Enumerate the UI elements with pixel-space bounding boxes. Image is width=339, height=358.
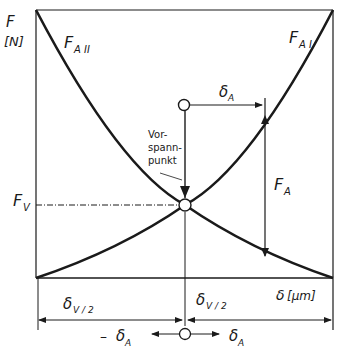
label-fv: F V	[13, 191, 31, 213]
svg-text:F: F	[64, 33, 74, 52]
svg-text:A: A	[237, 338, 244, 348]
top-circle-icon	[179, 100, 190, 111]
svg-text:δ: δ	[219, 83, 228, 101]
bottom-circle-icon	[180, 329, 191, 340]
svg-text:F: F	[289, 28, 299, 47]
label-fa-i: F A I	[289, 28, 312, 50]
label-delta-a-top: δ A	[219, 83, 234, 103]
svg-text:–: –	[100, 328, 107, 344]
svg-text:V: V	[23, 202, 31, 213]
svg-text:V / 2: V / 2	[206, 301, 227, 311]
svg-text:F: F	[274, 175, 284, 194]
svg-text:A II: A II	[73, 44, 90, 55]
preload-point-label: Vor- spann- punkt	[148, 129, 182, 166]
svg-text:δ: δ	[276, 287, 285, 303]
preload-point-icon	[179, 199, 191, 211]
svg-text:δ: δ	[63, 295, 72, 313]
x-axis-label: δ [μm]	[276, 287, 316, 303]
svg-text:δ: δ	[229, 327, 238, 345]
svg-text:spann-: spann-	[148, 142, 182, 153]
svg-text:δ: δ	[196, 291, 205, 309]
label-fa-force: F A	[274, 175, 291, 197]
svg-text:A: A	[227, 93, 234, 103]
label-positive-delta-a: δ A	[229, 327, 244, 348]
y-axis-unit: [N]	[4, 34, 24, 49]
preload-arrow-head-icon	[180, 186, 190, 198]
svg-text:[μm]: [μm]	[287, 289, 316, 303]
svg-text:A: A	[124, 338, 131, 348]
svg-text:δ: δ	[116, 327, 125, 345]
svg-text:A I: A I	[298, 39, 312, 50]
svg-text:Vor-: Vor-	[148, 129, 168, 140]
svg-text:punkt: punkt	[148, 155, 177, 166]
label-half-preload-right: δ V / 2	[196, 291, 227, 311]
label-half-preload-left: δ V / 2	[63, 295, 94, 315]
label-fa-ii: F A II	[64, 33, 90, 55]
y-axis-symbol: F	[6, 13, 15, 31]
svg-text:A: A	[283, 186, 291, 197]
svg-text:F: F	[13, 191, 23, 210]
preload-leader-line	[160, 173, 182, 180]
force-displacement-diagram: F [N] F A II F A I δ A Vor- spann- punkt…	[0, 0, 339, 358]
svg-text:V / 2: V / 2	[73, 305, 94, 315]
label-negative-delta-a: – δ A	[100, 327, 131, 348]
